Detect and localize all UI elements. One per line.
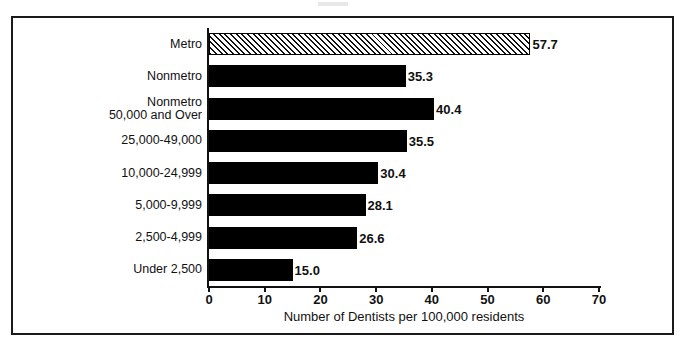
x-axis-tick-label: 20 [300,292,340,307]
bar-row: 28.1 [209,194,599,216]
bar-row: 40.4 [209,98,599,120]
x-axis-tick-label: 30 [356,292,396,307]
category-label: 10,000-24,999 [22,167,202,180]
x-axis-tick-label: 0 [189,292,229,307]
scan-artifact [318,2,348,6]
category-label: Nonmetro [22,70,202,83]
bar-value-label: 35.5 [407,133,434,148]
x-axis-tick-label: 40 [412,292,452,307]
bar[interactable] [209,65,406,87]
x-axis-tick-label: 10 [245,292,285,307]
bar-value-label: 40.4 [434,101,461,116]
bar-value-label: 57.7 [530,37,557,52]
bar[interactable] [209,130,407,152]
category-label-column: MetroNonmetroNonmetro 50,000 and Over25,… [20,28,202,286]
category-label: 5,000-9,999 [22,199,202,212]
bar-value-label: 35.3 [406,69,433,84]
x-axis-title: Number of Dentists per 100,000 residents [209,309,599,324]
bar[interactable] [209,33,530,55]
bar-value-label: 26.6 [357,230,384,245]
bar[interactable] [209,227,357,249]
bar-value-label: 28.1 [366,198,393,213]
category-label: Under 2,500 [22,263,202,276]
bar-row: 35.3 [209,65,599,87]
bar[interactable] [209,98,434,120]
bar-value-label: 15.0 [293,262,320,277]
category-label: 25,000-49,000 [22,134,202,147]
bar[interactable] [209,259,293,281]
bar-row: 26.6 [209,227,599,249]
x-axis-tick-label: 70 [579,292,619,307]
bar-value-label: 30.4 [378,166,405,181]
category-label: Metro [22,38,202,51]
category-label: 2,500-4,999 [22,231,202,244]
bar-row: 57.7 [209,33,599,55]
chart-figure: MetroNonmetroNonmetro 50,000 and Over25,… [0,0,686,349]
category-label: Nonmetro 50,000 and Over [22,96,202,122]
bar-row: 30.4 [209,162,599,184]
x-axis-tick-label: 60 [523,292,563,307]
bar[interactable] [209,162,378,184]
bar-row: 15.0 [209,259,599,281]
bar[interactable] [209,194,366,216]
x-axis-tick-label: 50 [468,292,508,307]
plot-area: 57.735.340.435.530.428.126.615.0 [209,28,599,286]
bar-row: 35.5 [209,130,599,152]
